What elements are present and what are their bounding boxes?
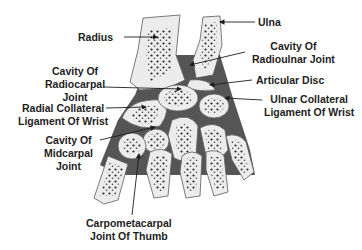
label-line: Ulnar Collateral xyxy=(264,93,354,106)
label-line: Ligament Of Wrist xyxy=(264,106,354,119)
label-articular-disc: Articular Disc xyxy=(256,74,324,87)
label-line: Radius xyxy=(78,31,113,44)
label-line: Radial Collateral xyxy=(18,102,108,115)
metacarpal-index xyxy=(146,149,172,198)
label-line: Cavity Of xyxy=(252,40,335,53)
label-cavity-midcarpal: Cavity Of Midcarpal Joint xyxy=(44,134,93,173)
label-radial-collateral: Radial Collateral Ligament Of Wrist xyxy=(18,102,108,128)
metacarpal-thumb xyxy=(94,156,128,204)
label-line: Carpometacarpal xyxy=(86,217,172,230)
label-line: Ulna xyxy=(258,16,281,29)
label-cavity-radioulnar: Cavity Of Radioulnar Joint xyxy=(252,40,335,66)
metacarpal-middle xyxy=(180,152,202,198)
label-line: Midcarpal xyxy=(44,147,93,160)
trapezium-bone xyxy=(118,133,146,159)
label-ulnar-collateral: Ulnar Collateral Ligament Of Wrist xyxy=(264,93,354,119)
label-carpometacarpal-thumb: Carpometacarpal Joint Of Thumb xyxy=(86,217,172,243)
label-line: Cavity Of xyxy=(44,134,93,147)
label-cavity-radiocarpal: Cavity Of Radiocarpal Joint xyxy=(45,65,105,104)
label-line: Joint xyxy=(44,160,93,173)
label-line: Radiocarpal xyxy=(45,78,105,91)
trapezoid-bone xyxy=(143,129,169,153)
label-radius: Radius xyxy=(78,31,113,44)
label-line: Cavity Of xyxy=(45,65,105,78)
label-line: Joint Of Thumb xyxy=(86,230,172,243)
label-line: Radioulnar Joint xyxy=(252,53,335,66)
label-ulna: Ulna xyxy=(258,16,281,29)
label-line: Articular Disc xyxy=(256,74,324,87)
radius-bone xyxy=(130,15,185,90)
label-line: Ligament Of Wrist xyxy=(18,115,108,128)
triquetrum-bone xyxy=(199,94,229,118)
